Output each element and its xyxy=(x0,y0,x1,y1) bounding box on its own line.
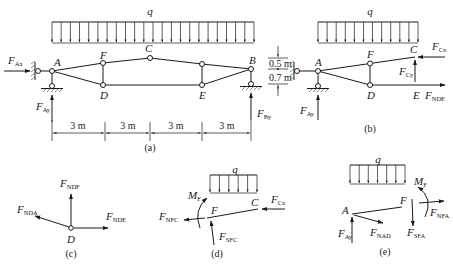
svg-text:FAy: FAy xyxy=(299,104,315,117)
node-label-F: F xyxy=(210,204,218,216)
svg-text:FCy: FCy xyxy=(398,65,414,78)
force-FAy: FAy xyxy=(35,95,52,122)
panel-c: FNDF FNDA FNDE D (c) xyxy=(16,177,126,260)
node-label-D: D xyxy=(366,89,375,101)
span-4: 3 m xyxy=(219,120,235,131)
distributed-load-q: q xyxy=(52,5,254,43)
span-3: 3 m xyxy=(168,120,184,131)
load-arrows xyxy=(350,165,405,183)
node-label-F: F xyxy=(99,49,107,61)
svg-text:FAy: FAy xyxy=(35,100,51,113)
caption-a: (a) xyxy=(144,142,155,154)
node-label-C: C xyxy=(251,196,259,208)
svg-text:FBy: FBy xyxy=(256,107,272,120)
span-1: 3 m xyxy=(70,120,86,131)
force-FAy: FAy xyxy=(299,95,318,120)
svg-text:MF: MF xyxy=(413,175,427,188)
panel-a: q xyxy=(4,5,292,154)
height-upper: 0.5 m xyxy=(269,58,292,69)
panel-d: q MF FNFC FSFC FCx F C (d) xyxy=(158,163,286,260)
truss-free-body-diagrams: q xyxy=(0,0,453,275)
force-FSFA: FSFA xyxy=(406,199,425,239)
node-label-D: D xyxy=(99,89,108,101)
svg-text:MF: MF xyxy=(187,189,201,202)
force-FCx: FCx xyxy=(262,193,286,209)
svg-text:FAx: FAx xyxy=(7,54,23,67)
load-label-q: q xyxy=(232,163,238,175)
force-FNFA: FNFA xyxy=(419,201,450,219)
force-FNDA: FNDA xyxy=(16,203,69,227)
load-label-q: q xyxy=(375,153,381,165)
truss-members xyxy=(52,58,251,85)
moment-MF: MF xyxy=(187,189,207,228)
moment-MF: MF xyxy=(413,175,428,217)
force-FCx: FCx xyxy=(418,40,447,57)
svg-text:FNFA: FNFA xyxy=(429,206,450,219)
panel-e: q FAy FNAD FSFA MF xyxy=(337,153,450,258)
panel-b: q xyxy=(290,5,447,135)
node-label-B: B xyxy=(249,54,256,66)
span-dimensions: 3 m 3 m 3 m 3 m xyxy=(52,120,251,141)
svg-text:FSFC: FSFC xyxy=(218,230,237,243)
truss-nodes xyxy=(50,56,254,88)
svg-text:FNDE: FNDE xyxy=(424,89,445,102)
caption-b: (b) xyxy=(364,123,376,135)
svg-text:FNFC: FNFC xyxy=(158,210,178,223)
force-FBy: FBy xyxy=(251,93,272,120)
node-label-D: D xyxy=(66,233,75,245)
svg-text:FNDF: FNDF xyxy=(59,177,80,190)
svg-text:FNDA: FNDA xyxy=(16,203,38,216)
node-label-A: A xyxy=(53,56,61,68)
load-arrows xyxy=(52,22,254,42)
load-label-q: q xyxy=(147,5,153,17)
force-FNDE: FNDE xyxy=(74,210,126,228)
support-B xyxy=(240,69,262,90)
node-label-F: F xyxy=(366,48,374,60)
node-label-F: F xyxy=(399,194,407,206)
svg-text:FSFA: FSFA xyxy=(406,226,425,239)
svg-text:FCx: FCx xyxy=(270,193,286,206)
left-wall-support xyxy=(31,61,52,80)
load-label-q: q xyxy=(367,5,373,17)
node-label-C: C xyxy=(145,42,153,54)
svg-text:FNAD: FNAD xyxy=(369,226,391,239)
support-A xyxy=(41,71,63,92)
height-lower: 0.7 m xyxy=(269,72,292,83)
svg-text:FAy: FAy xyxy=(337,227,353,240)
force-FNAD: FNAD xyxy=(354,215,391,239)
caption-d: (d) xyxy=(211,248,223,260)
svg-text:FNDE: FNDE xyxy=(105,210,126,223)
node-label-E: E xyxy=(198,89,206,101)
node-label-E: E xyxy=(412,89,420,101)
svg-text:FCx: FCx xyxy=(431,40,447,53)
span-2: 3 m xyxy=(120,120,136,131)
force-FCy: FCy xyxy=(398,60,415,82)
force-FNDE: FNDE xyxy=(372,85,445,102)
force-FAx: FAx xyxy=(4,54,30,71)
node-label-A: A xyxy=(341,204,349,216)
force-FSFC: FSFC xyxy=(211,221,237,245)
node-label-A: A xyxy=(314,56,322,68)
node-label-C: C xyxy=(410,43,418,55)
load-arrows xyxy=(318,22,418,42)
force-FAy: FAy xyxy=(337,217,353,243)
caption-e: (e) xyxy=(379,246,390,258)
height-dimensions: 0.5 m 0.7 m xyxy=(268,46,292,96)
caption-c: (c) xyxy=(65,248,76,260)
force-FNDF: FNDF xyxy=(59,177,80,226)
load-arrows xyxy=(210,175,257,192)
